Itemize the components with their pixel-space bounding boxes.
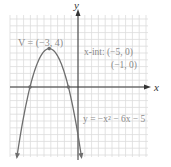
x-intercept-point bbox=[28, 85, 32, 89]
equation-label: y = −x² − 6x − 5 bbox=[83, 114, 146, 124]
x-intercept-point bbox=[67, 85, 71, 89]
parabola-graph: x y V = (−3, 4) x-int: (−5, 0) (−1, 0) y… bbox=[0, 0, 171, 167]
curve-arrow-left-icon bbox=[15, 153, 20, 159]
x-axis-label: x bbox=[153, 81, 159, 93]
x-intercept-label-2: (−1, 0) bbox=[111, 60, 137, 71]
parabola-curve bbox=[17, 49, 82, 157]
y-axis-label: y bbox=[73, 0, 79, 11]
vertex-label: V = (−3, 4) bbox=[18, 37, 63, 49]
curve-arrow-right-icon bbox=[78, 153, 83, 159]
x-axis-arrow-icon bbox=[144, 85, 151, 90]
x-intercept-label-1: x-int: (−5, 0) bbox=[84, 47, 133, 58]
